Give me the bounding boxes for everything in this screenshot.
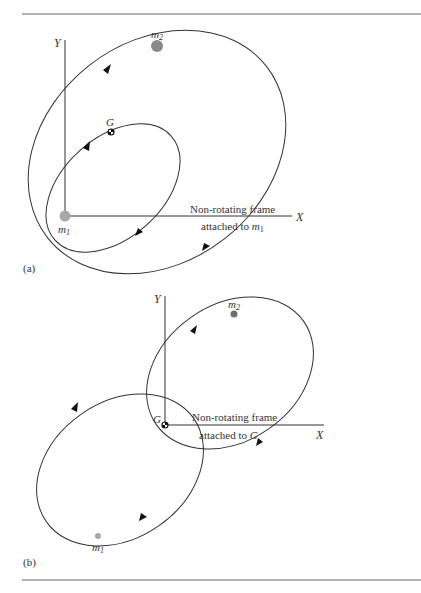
m2-label-a: m2 xyxy=(151,28,163,42)
arrow-icon xyxy=(71,402,78,412)
arrow-icon xyxy=(190,325,197,334)
arrow-icon xyxy=(139,513,147,521)
panel-tag-a: (a) xyxy=(23,262,36,275)
frame-label-a-line1: Non-rotating frame xyxy=(190,203,275,215)
x-axis-label-a: X xyxy=(295,210,304,224)
panel-tag-b: (b) xyxy=(23,556,36,569)
x-axis-label-b: X xyxy=(315,428,324,442)
m1-label-b: m1 xyxy=(92,541,104,555)
m1-label-a: m1 xyxy=(58,223,70,237)
frame-label-b-line2: attached to G xyxy=(199,429,258,441)
panel-b: Y X G m2 m1 Non-rotating frame attached … xyxy=(7,266,342,578)
frame-label-b-line1: Non-rotating frame xyxy=(192,411,277,423)
orbit-m2-a xyxy=(0,0,334,324)
frame-label-a-line2: attached to m1 xyxy=(201,220,264,234)
two-body-orbit-figure: Y X G m2 m1 Non-rotating frame attached … xyxy=(0,0,421,593)
mass-m1-b xyxy=(95,533,101,539)
orbit-m1-b xyxy=(7,363,232,578)
g-label-a: G xyxy=(106,116,114,128)
arrow-icon xyxy=(83,141,90,151)
center-of-mass-icon-b xyxy=(162,422,168,428)
y-axis-label-b: Y xyxy=(154,292,162,306)
arrow-icon xyxy=(103,64,111,74)
y-axis-label-a: Y xyxy=(54,36,62,50)
panel-a: Y X G m2 m1 Non-rotating frame attached … xyxy=(0,0,334,324)
m2-label-b: m2 xyxy=(228,298,240,312)
mass-m1-a xyxy=(60,211,71,222)
g-label-b: G xyxy=(153,413,161,425)
center-of-mass-icon-a xyxy=(108,129,114,135)
